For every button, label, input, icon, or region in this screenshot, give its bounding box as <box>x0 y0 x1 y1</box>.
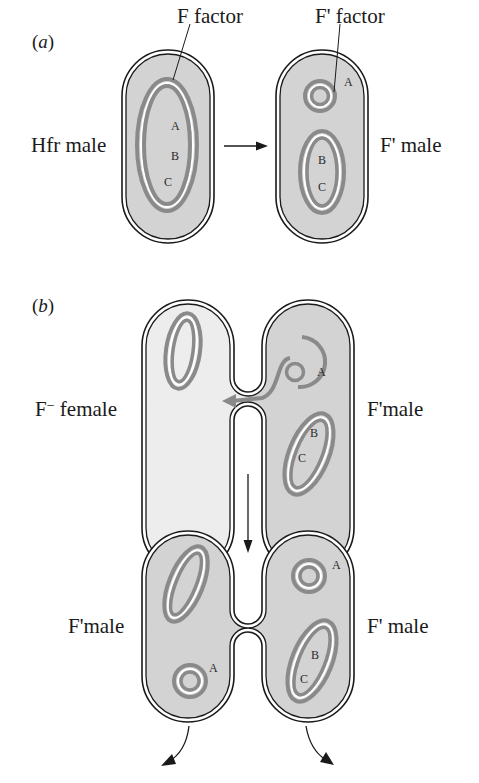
panel-a-label: (a) <box>32 32 54 51</box>
transition-arrow <box>224 142 268 151</box>
hfr-male-cell <box>122 50 214 243</box>
mating-pair-stage2 <box>142 531 354 722</box>
plasmid-gene-a-b1: A <box>317 366 326 378</box>
gene-b: B <box>171 150 179 162</box>
plasmid-gene-a-b2-right: A <box>332 559 341 571</box>
f-prime-male-label-b2-right: F' male <box>367 616 429 637</box>
chromosome-gene-c-b1: C <box>298 452 306 464</box>
f-prime-male-label-a: F' male <box>380 135 442 156</box>
gene-a: A <box>171 120 180 132</box>
chromosome-gene-c-b2: C <box>300 673 308 685</box>
f-prime-factor-callout: F' factor <box>315 6 385 27</box>
chromosome-gene-b: B <box>318 154 326 166</box>
f-prime-male-cell-a <box>276 50 368 243</box>
conjugation-diagram <box>0 0 479 783</box>
transition-arrow-down <box>244 474 253 553</box>
gene-c: C <box>164 176 172 188</box>
f-prime-male-label-b1: F'male <box>367 399 423 420</box>
chromosome-gene-c: C <box>318 181 326 193</box>
panel-b-label: (b) <box>32 296 54 315</box>
chromosome-gene-b-b1: B <box>310 427 318 439</box>
f-factor-callout: F factor <box>177 6 243 27</box>
chromosome-gene-b-b2: B <box>311 649 319 661</box>
separation-arrows <box>161 726 334 766</box>
plasmid-gene-a-b2-left: A <box>209 662 218 674</box>
f-prime-male-label-b2-left: F'male <box>68 616 124 637</box>
f-minus-female-label: F− female <box>35 399 117 420</box>
plasmid-gene-a: A <box>344 76 353 88</box>
hfr-male-label: Hfr male <box>31 135 106 156</box>
